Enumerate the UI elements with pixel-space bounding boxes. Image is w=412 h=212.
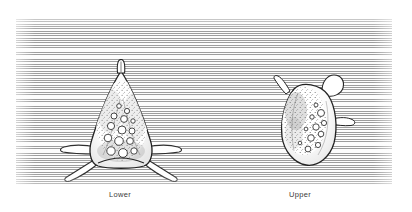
specimen-lower [56,59,186,184]
specimen-upper-left-horn [274,76,290,94]
specimen-upper [264,71,359,176]
figure-root: Lower Upper [0,0,412,212]
illustration-plate [16,19,392,185]
caption-lower: Lower [60,190,180,199]
caption-upper: Upper [240,190,360,199]
